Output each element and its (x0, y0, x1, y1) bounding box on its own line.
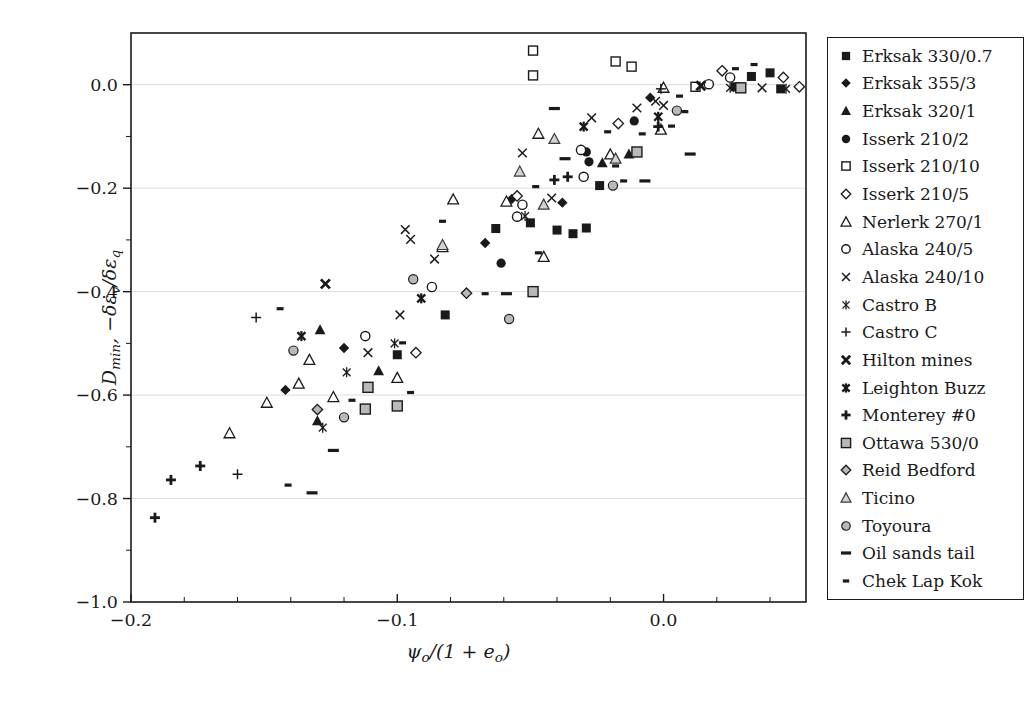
y-tick-label: −0.2 (76, 178, 119, 198)
triangle-filled-icon (837, 102, 855, 120)
data-point (751, 63, 758, 66)
diamond-gray-icon (837, 461, 855, 479)
x-tick-label: −0.1 (376, 610, 419, 630)
data-point (557, 197, 567, 207)
series-chek-lap-kok (277, 63, 758, 487)
data-point (676, 95, 683, 98)
legend-item: Leighton Buzz (830, 374, 1021, 401)
legend-item-label: Castro B (862, 295, 937, 315)
data-point (627, 62, 636, 71)
y-axis-label: Dmin, −δεv/δεq (98, 249, 123, 386)
series-erksak-330-0-7 (393, 68, 785, 359)
data-point (512, 212, 521, 221)
data-point (685, 152, 696, 155)
legend-item-label: Ticino (862, 488, 915, 508)
data-point (518, 149, 527, 158)
data-point (497, 259, 506, 268)
diamond-filled-icon (837, 74, 855, 92)
legend-item-label: Isserk 210/10 (862, 156, 980, 176)
data-point (579, 172, 588, 181)
data-point (396, 311, 405, 320)
legend-item: Oil sands tail (830, 540, 1021, 567)
data-point (526, 218, 535, 227)
data-point (658, 82, 669, 92)
legend-item-label: Isserk 210/5 (862, 184, 969, 204)
series-toyoura (289, 106, 682, 422)
data-point (339, 413, 348, 422)
legend-item-label: Isserk 210/2 (862, 129, 969, 149)
data-point (505, 314, 514, 323)
square-open-icon (837, 157, 855, 175)
data-point (584, 157, 593, 166)
data-point (766, 68, 775, 77)
data-point (439, 220, 446, 223)
data-point (401, 225, 410, 234)
data-point (563, 172, 573, 182)
data-point (277, 307, 284, 310)
data-point (407, 391, 414, 394)
data-point (529, 46, 538, 55)
y-tick-label: −0.6 (76, 385, 119, 405)
dash-short-icon (837, 572, 855, 590)
legend-item: Castro B (830, 291, 1021, 318)
data-point (514, 166, 525, 176)
data-point (732, 67, 739, 70)
data-point (672, 106, 681, 115)
asterisk-thin-icon (837, 296, 855, 314)
circle-filled-icon (837, 130, 855, 148)
data-point (518, 200, 527, 209)
data-point (297, 331, 305, 341)
legend-item: Alaska 240/5 (830, 236, 1021, 263)
data-point (794, 82, 804, 92)
x-bold-icon (837, 351, 855, 369)
legend-item-label: Erksak 355/3 (862, 73, 976, 93)
data-point (293, 378, 304, 388)
legend-item-label: Monterey #0 (862, 405, 976, 425)
data-point (704, 80, 713, 89)
series-erksak-355-3 (280, 92, 655, 395)
data-point (441, 310, 450, 319)
data-point (501, 292, 512, 295)
data-point (427, 282, 436, 291)
data-point (778, 72, 788, 82)
data-point (576, 145, 585, 154)
y-tick-label: −0.8 (76, 489, 119, 509)
data-point (553, 226, 562, 235)
data-point (349, 399, 356, 402)
scatter-figure: −0.2−0.10.00.0−0.2−0.4−0.6−0.8−1.0ψo/(1 … (0, 0, 1029, 705)
data-point (532, 185, 539, 188)
legend-item: Ticino (830, 485, 1021, 512)
data-point (611, 57, 620, 66)
data-point (654, 112, 662, 122)
data-point (315, 324, 326, 334)
data-point (681, 110, 688, 113)
data-point (604, 130, 611, 133)
data-point (633, 104, 642, 113)
data-point (391, 338, 399, 348)
data-point (535, 251, 542, 254)
data-point (399, 341, 406, 344)
square-gray-icon (837, 434, 855, 452)
data-point (630, 116, 639, 125)
data-point (343, 367, 351, 377)
data-point (549, 107, 560, 110)
legend-item: Alaska 240/10 (830, 263, 1021, 290)
legend-item: Ottawa 530/0 (830, 429, 1021, 456)
data-point (285, 483, 292, 486)
data-point (319, 423, 327, 433)
data-point (195, 461, 205, 471)
data-point (587, 114, 596, 123)
y-tick-label: 0.0 (90, 75, 118, 95)
series-castro-c (233, 84, 666, 479)
legend-item-label: Ottawa 530/0 (862, 433, 979, 453)
data-point (339, 343, 349, 353)
diamond-open-icon (837, 185, 855, 203)
legend-item: Nerlerk 270/1 (830, 208, 1021, 235)
legend-item: Chek Lap Kok (830, 567, 1021, 594)
legend-item: Hilton mines (830, 346, 1021, 373)
data-point (549, 175, 559, 185)
x-axis-label: ψo/(1 + eo) (407, 640, 511, 665)
legend-item: Isserk 210/10 (830, 153, 1021, 180)
data-point (328, 392, 339, 402)
series-erksak-320-1 (312, 148, 634, 425)
